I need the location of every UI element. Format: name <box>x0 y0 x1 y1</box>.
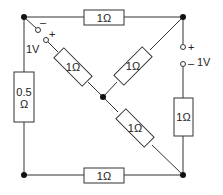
circuit-svg: 1Ω 1Ω 0.5 Ω 1Ω 1Ω 1Ω 1Ω 1V + – + – 1V <box>0 0 223 195</box>
circuit-diagram: 1Ω 1Ω 0.5 Ω 1Ω 1Ω 1Ω 1Ω 1V + – + – 1V <box>0 0 223 195</box>
node-center <box>100 94 106 100</box>
node-top-left <box>21 14 27 20</box>
resistor-top-label: 1Ω <box>97 12 111 24</box>
right-source-plus-terminal <box>181 45 186 50</box>
resistor-left-label-line1: 0.5 <box>16 86 31 98</box>
right-source-plus: + <box>188 41 194 53</box>
node-bottom-left <box>21 172 27 178</box>
right-source-minus: – <box>188 57 195 69</box>
resistor-diag-upper-left-label: 1Ω <box>66 61 80 73</box>
resistor-right-label: 1Ω <box>176 111 190 123</box>
resistor-diag-upper-right-label: 1Ω <box>126 60 140 72</box>
left-source-minus-terminal <box>36 28 41 33</box>
left-source-minus: – <box>40 16 47 28</box>
left-source-plus-terminal <box>44 38 49 43</box>
left-source-plus: + <box>49 28 55 40</box>
node-top-right <box>180 14 186 20</box>
resistor-left-label-line2: Ω <box>20 98 28 110</box>
resistor-diag-lower-right-label: 1Ω <box>128 122 142 134</box>
right-source-minus-terminal <box>181 62 186 67</box>
resistor-bottom-label: 1Ω <box>97 170 111 182</box>
left-source-voltage: 1V <box>26 43 40 55</box>
node-bottom-right <box>180 172 186 178</box>
right-source-voltage: 1V <box>197 56 211 68</box>
